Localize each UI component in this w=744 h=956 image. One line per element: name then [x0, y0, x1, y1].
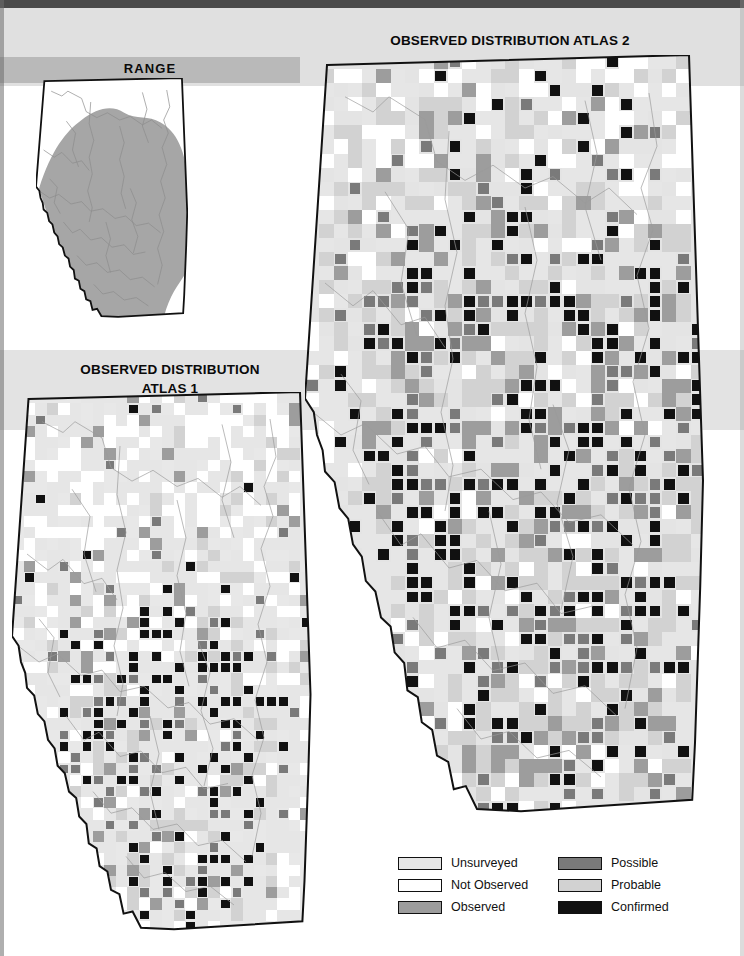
- grid-cell-unsurveyed: [243, 910, 255, 921]
- grid-cell-unsurveyed: [104, 550, 116, 561]
- grid-cell-unsurveyed: [197, 403, 209, 414]
- grid-cell-confirmed: [140, 607, 149, 616]
- grid-cell-unsurveyed: [47, 718, 59, 729]
- grid-cell-unsurveyed: [58, 718, 70, 729]
- grid-cell-observed: [24, 561, 36, 572]
- grid-cell-unsurveyed: [254, 876, 266, 887]
- grid-cell-probable: [434, 111, 448, 125]
- grid-cell-not-observed: [150, 617, 162, 628]
- grid-cell-unsurveyed: [150, 921, 162, 932]
- grid-cell-not-observed: [362, 125, 376, 139]
- grid-cell-confirmed: [464, 606, 475, 617]
- grid-cell-confirmed: [175, 832, 184, 841]
- grid-cell-unsurveyed: [185, 493, 197, 504]
- grid-cell-unsurveyed: [362, 154, 376, 168]
- grid-cell-probable: [676, 688, 690, 702]
- grid-cell-confirmed: [279, 697, 288, 706]
- grid-cell-unsurveyed: [562, 407, 576, 421]
- grid-cell-confirmed: [221, 618, 230, 627]
- grid-cell-probable: [591, 294, 605, 308]
- grid-cell-unsurveyed: [662, 435, 676, 449]
- grid-cell-unsurveyed: [648, 252, 662, 266]
- grid-cell-possible: [592, 394, 603, 405]
- grid-cell-confirmed: [592, 563, 603, 574]
- left-edge-strip: [0, 0, 4, 956]
- grid-cell-probable: [448, 688, 462, 702]
- grid-cell-probable: [231, 640, 243, 651]
- grid-cell-unsurveyed: [289, 797, 301, 808]
- grid-cell-unsurveyed: [476, 111, 490, 125]
- grid-cell-possible: [152, 832, 161, 841]
- grid-cell-unsurveyed: [162, 696, 174, 707]
- grid-cell-probable: [662, 491, 676, 505]
- grid-cell-not-observed: [634, 182, 648, 196]
- grid-cell-confirmed: [592, 352, 603, 363]
- grid-cell-unsurveyed: [174, 853, 186, 864]
- grid-cell-unsurveyed: [254, 426, 266, 437]
- grid-cell-possible: [364, 296, 375, 307]
- legend-item-unsurveyed: Unsurveyed: [398, 852, 528, 874]
- grid-cell-unsurveyed: [266, 831, 278, 842]
- grid-cell-probable: [254, 763, 266, 774]
- grid-cell-unsurveyed: [662, 252, 676, 266]
- grid-cell-unsurveyed: [576, 759, 590, 773]
- grid-cell-probable: [676, 576, 690, 590]
- grid-cell-not-observed: [197, 437, 209, 448]
- grid-cell-unsurveyed: [634, 407, 648, 421]
- grid-cell-confirmed: [592, 606, 603, 617]
- grid-cell-unsurveyed: [277, 775, 289, 786]
- grid-cell-confirmed: [140, 911, 149, 920]
- grid-cell-probable: [277, 471, 289, 482]
- grid-cell-possible: [392, 282, 403, 293]
- grid-cell-probable: [662, 759, 676, 773]
- grid-cell-unsurveyed: [662, 421, 676, 435]
- grid-cell-probable: [419, 97, 433, 111]
- grid-cell-not-observed: [104, 527, 116, 538]
- grid-cell-unsurveyed: [35, 685, 47, 696]
- grid-cell-probable: [605, 294, 619, 308]
- grid-cell-probable: [676, 111, 690, 125]
- grid-cell-not-observed: [289, 887, 301, 898]
- grid-cell-observed: [562, 618, 576, 632]
- grid-cell-observed: [174, 595, 186, 606]
- grid-cell-not-observed: [150, 842, 162, 853]
- grid-cell-unsurveyed: [231, 550, 243, 561]
- grid-cell-unsurveyed: [405, 519, 419, 533]
- grid-cell-not-observed: [634, 83, 648, 97]
- grid-cell-not-observed: [24, 403, 36, 414]
- grid-cell-unsurveyed: [634, 111, 648, 125]
- grid-cell-probable: [348, 224, 362, 238]
- grid-cell-probable: [562, 224, 576, 238]
- grid-cell-unsurveyed: [197, 550, 209, 561]
- grid-cell-not-observed: [174, 493, 186, 504]
- grid-cell-confirmed: [478, 324, 489, 335]
- grid-cell-unsurveyed: [81, 516, 93, 527]
- grid-cell-probable: [70, 786, 82, 797]
- grid-cell-probable: [462, 238, 476, 252]
- grid-cell-unsurveyed: [139, 797, 151, 808]
- grid-cell-probable: [70, 696, 82, 707]
- grid-cell-not-observed: [231, 448, 243, 459]
- grid-cell-unsurveyed: [634, 435, 648, 449]
- grid-cell-unsurveyed: [254, 583, 266, 594]
- grid-cell-probable: [576, 548, 590, 562]
- grid-cell-unsurveyed: [300, 606, 312, 617]
- grid-cell-unsurveyed: [548, 55, 562, 69]
- grid-cell-observed: [162, 448, 174, 459]
- grid-cell-observed: [591, 407, 605, 421]
- grid-cell-probable: [208, 606, 220, 617]
- grid-cell-not-observed: [419, 69, 433, 83]
- grid-cell-not-observed: [619, 322, 633, 336]
- grid-cell-possible: [478, 183, 489, 194]
- grid-cell-confirmed: [198, 765, 207, 774]
- grid-cell-confirmed: [450, 535, 461, 546]
- grid-cell-probable: [362, 196, 376, 210]
- grid-cell-unsurveyed: [434, 210, 448, 224]
- grid-cell-not-observed: [70, 730, 82, 741]
- grid-cell-unsurveyed: [676, 519, 690, 533]
- grid-cell-probable: [208, 550, 220, 561]
- grid-cell-observed: [197, 628, 209, 639]
- grid-cell-confirmed: [507, 718, 518, 729]
- grid-cell-observed: [491, 745, 505, 759]
- grid-cell-unsurveyed: [289, 651, 301, 662]
